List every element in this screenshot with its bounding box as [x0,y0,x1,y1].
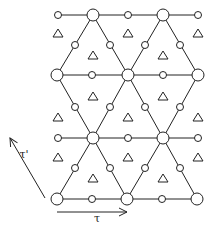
small-circle-node [125,135,132,142]
small-circle-node [142,104,149,111]
large-circle-node [87,9,99,21]
tau-label: τ [94,212,100,225]
triangle-icon [88,51,98,59]
small-circle-node [55,12,62,19]
small-circle-node [195,135,202,142]
small-circle-node [55,135,62,142]
large-circle-node [157,9,169,21]
diagram-canvas: τ τ' [0,0,214,226]
large-circle-node [51,193,63,205]
small-circle-node [107,165,114,172]
large-circle-node [191,193,203,205]
small-circle-node [195,12,202,19]
triangle-icon [193,29,203,37]
triangle-icon [158,92,168,100]
small-circle-node [72,165,79,172]
triangle-icon [158,51,168,59]
small-circle-node [177,42,184,49]
small-circle-node [177,165,184,172]
small-circle-node [125,12,132,19]
small-node-markers [55,12,202,203]
small-circle-node [142,42,149,49]
triangle-icon [88,174,98,182]
small-circle-node [159,196,166,203]
triangle-icon [88,92,98,100]
large-circle-node [157,132,169,144]
large-circle-node [122,69,134,81]
tau-prime-arrow [10,138,45,198]
triangle-icon [123,153,133,161]
triangle-icon [123,29,133,37]
triangle-icon [123,113,133,121]
kagome-lattice-diagram: τ τ' [0,0,214,226]
triangle-icon [193,153,203,161]
tau-prime-label: τ' [19,148,28,161]
triangle-icon [53,153,63,161]
small-circle-node [89,72,96,79]
small-circle-node [160,72,167,79]
small-circle-node [107,42,114,49]
triangle-icon [193,113,203,121]
large-circle-node [51,69,63,81]
small-circle-node [107,104,114,111]
large-circle-node [121,193,133,205]
small-circle-node [177,104,184,111]
small-circle-node [142,165,149,172]
small-circle-node [72,104,79,111]
small-circle-node [89,196,96,203]
large-circle-node [87,132,99,144]
triangle-icon [158,174,168,182]
triangle-icon [53,29,63,37]
triangle-icon [53,113,63,121]
small-circle-node [72,42,79,49]
large-circle-node [192,69,204,81]
